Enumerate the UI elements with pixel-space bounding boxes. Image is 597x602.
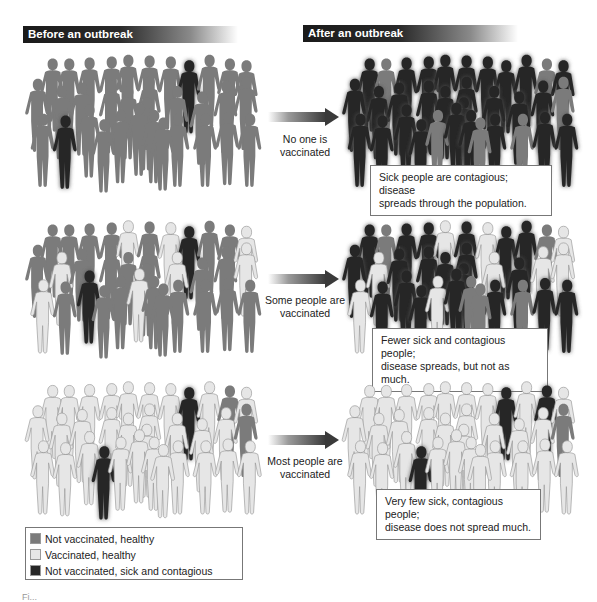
legend-item-vaccinated-healthy: Vaccinated, healthy: [30, 547, 238, 562]
crowd-figures: [25, 48, 265, 198]
legend-item-not-vaccinated-healthy: Not vaccinated, healthy: [30, 531, 238, 546]
swatch-vaccinated-healthy: [30, 549, 41, 560]
callout-scenario-1: Sick people are contagious; diseasesprea…: [370, 165, 552, 216]
crowd-before-scenario-3: [25, 375, 265, 525]
swatch-not-vaccinated-healthy: [30, 533, 41, 544]
arrow-scenario-2: [268, 270, 340, 288]
callout-scenario-3: Very few sick, contagious people;disease…: [376, 489, 541, 540]
header-after-outbreak: After an outbreak: [303, 25, 518, 42]
crowd-before-scenario-2: [25, 214, 265, 364]
arrow-scenario-1: [268, 108, 340, 126]
legend-item-sick-contagious: Not vaccinated, sick and contagious: [30, 563, 238, 578]
crowd-figures: [25, 214, 265, 364]
person-unvaccinated-icon: [215, 278, 239, 351]
swatch-sick-contagious: [30, 565, 41, 576]
legend: Not vaccinated, healthy Vaccinated, heal…: [25, 527, 243, 580]
arrow-scenario-3: [268, 431, 340, 449]
header-before-outbreak: Before an outbreak: [23, 26, 238, 43]
person-vaccinated-icon: [215, 439, 239, 512]
person-unvaccinated-icon: [215, 112, 239, 185]
crowd-before-scenario-1: [25, 48, 265, 198]
figure-label: Fi...: [22, 592, 37, 602]
crowd-figures: [25, 375, 265, 525]
